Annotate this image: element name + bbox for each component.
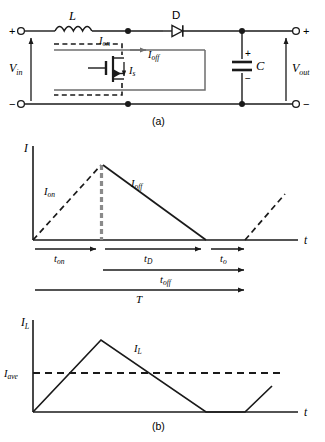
series-i-on — [33, 165, 101, 240]
series-i-off — [103, 165, 206, 240]
interval-t-o: to — [211, 249, 244, 266]
current-path-on — [54, 44, 122, 95]
terminal-out-plus — [293, 28, 300, 35]
svg-text:tD: tD — [144, 253, 153, 266]
terminal-in-plus — [18, 28, 25, 35]
chart-switch-diode-currents: I t Ion Ioff ton tD to — [23, 142, 308, 305]
caption-b: (b) — [152, 420, 165, 432]
label-terminal-out-minus: − — [303, 98, 309, 110]
terminal-in-minus — [18, 101, 25, 108]
label-diode: D — [172, 9, 180, 21]
top-rail — [25, 25, 292, 36]
axis-label-inductor-current: IL — [20, 316, 30, 331]
series-label-i-on: Ion — [43, 186, 55, 199]
interval-t-off: toff — [103, 270, 244, 287]
capacitor-symbol — [232, 31, 252, 104]
interval-t-d: tD — [105, 249, 201, 266]
node-switch-bottom — [125, 101, 131, 107]
figure-boost-converter: + − + − L D C + − Vin Vout Ion Ioff Is (… — [0, 0, 325, 442]
circuit-panel: + − + − L D C + − Vin Vout Ion Ioff Is (… — [9, 9, 310, 127]
series-i-on-next — [245, 194, 285, 240]
caption-a: (a) — [152, 115, 165, 127]
label-terminal-in-minus: − — [9, 98, 15, 110]
axis-label-time: t — [304, 234, 308, 246]
label-vin: Vin — [9, 61, 23, 77]
svg-text:ton: ton — [54, 253, 65, 266]
label-vout: Vout — [292, 61, 310, 77]
label-i-off-circuit: Ioff — [147, 49, 160, 62]
interval-t-on: ton — [35, 249, 96, 266]
series-i-l — [33, 340, 272, 412]
diode-symbol — [172, 25, 183, 36]
series-label-i-l: IL — [133, 343, 142, 356]
interval-period-t: T — [35, 290, 244, 305]
chart-inductor-current: IL t Iave IL (b) — [3, 316, 308, 432]
label-i-ave: Iave — [3, 368, 19, 381]
inductor-symbol — [55, 27, 92, 32]
svg-text:to: to — [220, 253, 227, 266]
terminal-out-minus — [293, 101, 300, 108]
axis-label-current: I — [23, 142, 29, 154]
label-terminal-in-plus: + — [9, 25, 15, 37]
label-capacitor-minus: − — [245, 73, 251, 84]
axis-label-time-il: t — [304, 406, 308, 418]
label-terminal-out-plus: + — [303, 25, 309, 37]
svg-text:T: T — [136, 293, 143, 305]
label-capacitor: C — [256, 59, 265, 73]
label-capacitor-plus: + — [245, 48, 251, 59]
label-i-s-circuit: Is — [128, 65, 136, 78]
node-switch-top — [125, 28, 131, 34]
label-inductor: L — [68, 9, 76, 23]
svg-text:toff: toff — [160, 274, 172, 287]
label-i-on-circuit: Ion — [98, 35, 110, 48]
mosfet-symbol — [88, 56, 124, 82]
series-label-i-off: Ioff — [130, 178, 143, 191]
